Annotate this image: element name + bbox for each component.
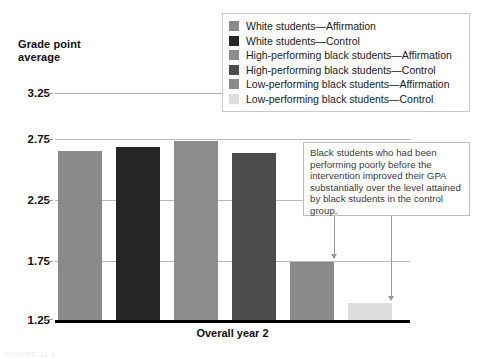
- leader-line-bar6: [391, 216, 392, 298]
- tick-3-25: [44, 93, 53, 94]
- legend-item-3: High-performing black students—Control: [229, 63, 463, 78]
- legend-swatch-2: [229, 50, 239, 60]
- axis-baseline: [55, 320, 410, 323]
- x-axis-title: Overall year 2: [55, 327, 410, 339]
- tick-1-25: [44, 319, 53, 320]
- figure-root: Grade point average 3.25 2.75 2.25 1.75 …: [0, 0, 492, 359]
- legend-label-1: White students—Control: [246, 35, 360, 47]
- legend-item-1: White students—Control: [229, 34, 463, 49]
- legend-label-4: Low-performing black students—Affirmatio…: [246, 78, 449, 90]
- bar-1: [116, 147, 160, 320]
- tick-1-75: [44, 261, 53, 262]
- callout-text: Black students who had been performing p…: [310, 147, 461, 216]
- y-axis-title: Grade point average: [18, 38, 118, 64]
- legend-label-5: Low-performing black students—Control: [246, 93, 433, 105]
- legend-swatch-3: [229, 65, 239, 75]
- legend-swatch-0: [229, 21, 239, 31]
- legend: White students—AffirmationWhite students…: [222, 13, 470, 112]
- legend-item-4: Low-performing black students—Affirmatio…: [229, 77, 463, 92]
- bar-2: [174, 141, 218, 320]
- leader-line-bar5: [334, 216, 335, 256]
- legend-swatch-1: [229, 36, 239, 46]
- y-axis-title-line2: average: [18, 51, 118, 64]
- tick-2-25: [44, 200, 53, 201]
- y-tick-label-1-25: 1.25: [16, 314, 50, 326]
- legend-item-5: Low-performing black students—Control: [229, 92, 463, 107]
- bar-0: [58, 151, 102, 320]
- bar-3: [232, 153, 276, 320]
- legend-label-0: White students—Affirmation: [246, 20, 376, 32]
- legend-item-0: White students—Affirmation: [229, 19, 463, 34]
- arrowhead-bar5-icon: [331, 254, 337, 259]
- legend-label-3: High-performing black students—Control: [246, 64, 436, 76]
- legend-swatch-5: [229, 94, 239, 104]
- legend-swatch-4: [229, 79, 239, 89]
- gridline-2-75: [55, 139, 410, 140]
- legend-label-2: High-performing black students—Affirmati…: [246, 49, 452, 61]
- y-axis-title-line1: Grade point: [18, 38, 118, 51]
- tick-2-75: [44, 139, 53, 140]
- legend-item-2: High-performing black students—Affirmati…: [229, 48, 463, 63]
- figure-caption: FIGURE 11.1: [4, 350, 56, 359]
- bar-5: [348, 303, 392, 320]
- callout-box: Black students who had been performing p…: [303, 142, 470, 216]
- arrowhead-bar6-icon: [388, 296, 394, 301]
- bar-4: [290, 262, 334, 320]
